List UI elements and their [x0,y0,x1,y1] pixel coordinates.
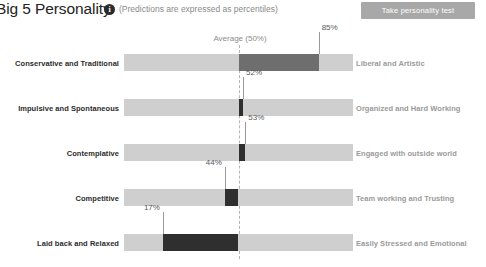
personality-trait-row: Conservative and TraditionalLiberal and … [0,54,486,71]
trait-value-label: 53% [248,113,264,122]
trait-bar-track[interactable]: 53% [124,144,353,161]
personality-trait-row: ContemplativeEngaged with outside world5… [0,144,486,161]
trait-right-label: Organized and Hard Working [356,103,461,112]
personality-chart: Average (50%) Conservative and Tradition… [0,26,486,267]
trait-right-label: Team working and Trusting [356,193,454,202]
trait-right-label: Engaged with outside world [356,148,457,157]
trait-left-label: Impulsive and Spontaneous [18,103,119,112]
trait-left-label: Laid back and Relaxed [37,238,119,247]
trait-bar-track[interactable]: 17% [124,234,353,251]
trait-value-label: 52% [246,68,262,77]
trait-left-label: Conservative and Traditional [15,58,119,67]
trait-left-label: Contemplative [67,148,119,157]
trait-value-marker [225,167,226,189]
trait-value-marker [163,212,164,234]
take-personality-test-button[interactable]: Take personality test [361,2,475,19]
personality-trait-row: Impulsive and SpontaneousOrganized and H… [0,99,486,116]
big5-personality-panel: Big 5 Personality i (Predictions are exp… [0,0,486,267]
trait-left-label: Competitive [76,193,119,202]
info-icon[interactable]: i [104,4,115,15]
trait-bar-fill [163,234,239,251]
trait-bar-fill [225,189,239,206]
trait-value-marker [243,77,244,99]
average-axis-label: Average (50%) [213,34,266,43]
trait-right-label: Liberal and Artistic [356,58,425,67]
trait-bar-fill [239,99,244,116]
trait-bar-track[interactable]: 52% [124,99,353,116]
trait-bar-fill [239,144,246,161]
personality-trait-row: Laid back and RelaxedEasily Stressed and… [0,234,486,251]
trait-bar-track[interactable]: 85% [124,54,353,71]
panel-subtitle: (Predictions are expressed as percentile… [119,4,278,14]
panel-header: Big 5 Personality i (Predictions are exp… [0,0,486,26]
personality-trait-row: CompetitiveTeam working and Trusting44% [0,189,486,206]
trait-value-marker [319,32,320,54]
trait-value-label: 44% [206,158,222,167]
trait-value-label: 85% [322,23,338,32]
trait-value-marker [245,122,246,144]
page-title: Big 5 Personality [0,0,111,18]
trait-right-label: Easily Stressed and Emotional [356,238,467,247]
trait-value-label: 17% [144,203,160,212]
